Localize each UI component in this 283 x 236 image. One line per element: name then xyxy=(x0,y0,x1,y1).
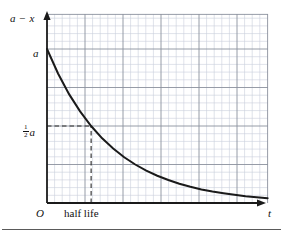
grid-major xyxy=(47,14,268,203)
x-axis-arrow-icon xyxy=(257,199,266,206)
y-axis-label: a − x xyxy=(10,12,35,24)
fraction-denominator: 2 xyxy=(23,131,29,139)
half-fraction: 1 2 xyxy=(23,124,29,139)
half-fraction-variable: a xyxy=(30,126,36,138)
y-axis-arrow-icon xyxy=(43,11,50,20)
x-axis-label: t xyxy=(268,207,271,219)
origin-label: O xyxy=(36,207,44,219)
half-life-caption: half life xyxy=(64,207,99,219)
grid-minor xyxy=(47,14,268,203)
chart-canvas xyxy=(0,0,283,236)
decay-curve xyxy=(47,49,268,198)
fraction-numerator: 1 xyxy=(23,124,29,131)
decay-chart-figure: a − x a 1 2 a O half life t xyxy=(0,0,283,236)
y-tick-label-a: a xyxy=(33,47,39,59)
y-tick-label-half-a: 1 2 a xyxy=(23,124,35,139)
